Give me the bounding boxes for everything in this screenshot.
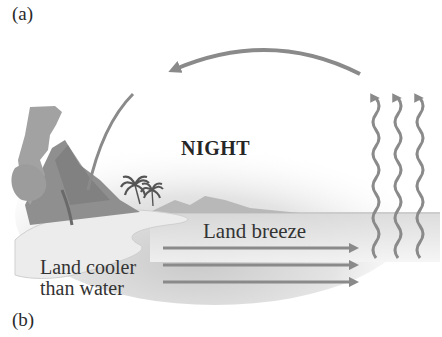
land-breeze-label: Land breeze: [203, 219, 306, 244]
panel-label-a: (a): [12, 3, 33, 25]
panel-label-b: (b): [12, 309, 34, 331]
circulation-arrow-top: [173, 50, 360, 74]
land-cooler-label-line2: than water: [40, 277, 124, 300]
night-title: NIGHT: [181, 137, 250, 160]
land-cooler-label-line1: Land cooler: [40, 256, 136, 279]
